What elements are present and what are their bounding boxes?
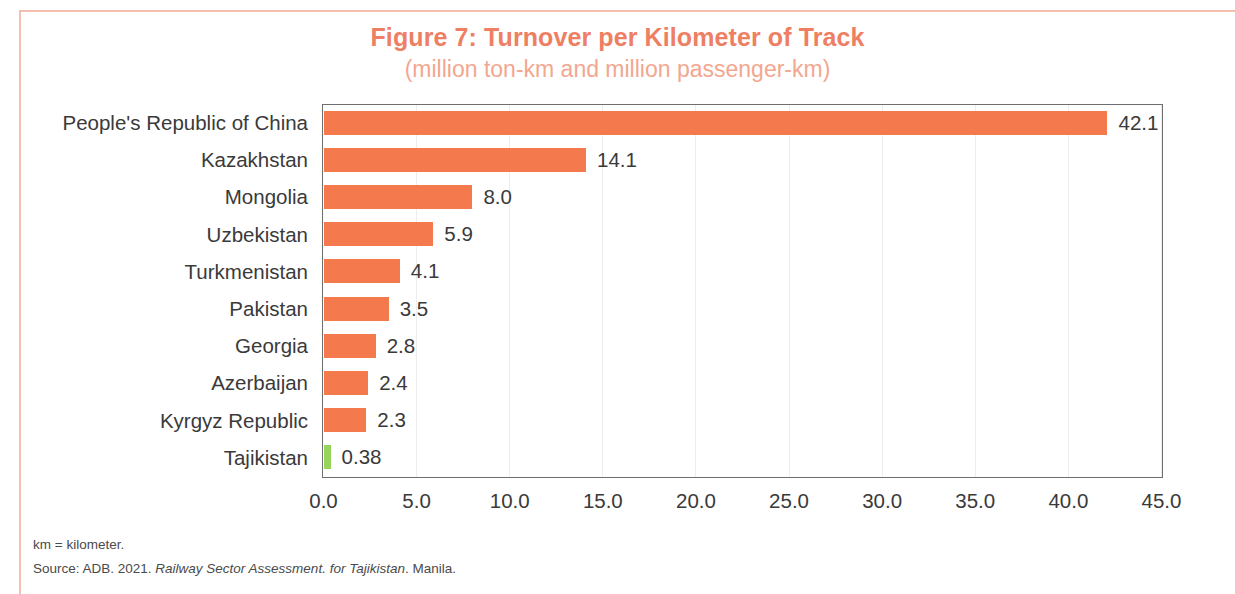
category-label: Georgia [0,327,308,364]
bar-row: Kazakhstan14.1 [0,141,1235,178]
category-label: Uzbekistan [0,216,308,253]
source-suffix: . Manila. [405,561,456,576]
bar-group: 8.0 [324,185,512,209]
bar-row: Georgia2.8 [0,327,1235,364]
bar-value-label: 42.1 [1118,111,1158,135]
bar-group: 42.1 [324,111,1159,135]
bar[interactable] [324,445,331,469]
bar-value-label: 0.38 [342,445,382,469]
category-label: Mongolia [0,178,308,215]
bar-group: 2.3 [324,408,406,432]
x-tick-label: 20.0 [676,489,716,513]
bar-group: 0.38 [324,445,382,469]
x-axis-tick-labels: 0.05.010.015.020.025.030.035.040.045.0 [0,489,1235,523]
x-tick-label: 25.0 [769,489,809,513]
chart-area: People's Republic of China42.1Kazakhstan… [0,100,1235,480]
category-label: Azerbaijan [0,364,308,401]
bar-value-label: 14.1 [597,148,637,172]
category-label: Tajikistan [0,439,308,476]
x-tick-label: 30.0 [862,489,902,513]
bar-rows: People's Republic of China42.1Kazakhstan… [0,100,1235,478]
bar[interactable] [324,185,473,209]
bar[interactable] [324,297,389,321]
bar[interactable] [324,111,1108,135]
bar-value-label: 5.9 [444,222,473,246]
x-tick-label: 10.0 [490,489,530,513]
bar-group: 2.8 [324,334,416,358]
bar-group: 14.1 [324,148,637,172]
source-note: Source: ADB. 2021. Railway Sector Assess… [33,557,1133,581]
category-label: Kazakhstan [0,141,308,178]
bar-group: 3.5 [324,297,429,321]
bar-row: Tajikistan0.38 [0,439,1235,476]
category-label: Kyrgyz Republic [0,402,308,439]
bar[interactable] [324,371,369,395]
bar[interactable] [324,334,376,358]
bar-row: Uzbekistan5.9 [0,216,1235,253]
bar[interactable] [324,148,587,172]
bar-value-label: 2.3 [377,408,406,432]
bar-value-label: 8.0 [483,185,512,209]
x-tick-label: 45.0 [1142,489,1182,513]
category-label: Turkmenistan [0,253,308,290]
bar-row: People's Republic of China42.1 [0,104,1235,141]
bar-row: Turkmenistan4.1 [0,253,1235,290]
bar-value-label: 4.1 [411,259,440,283]
bar-row: Kyrgyz Republic2.3 [0,402,1235,439]
source-title: Railway Sector Assessment. for Tajikista… [155,561,405,576]
bar-group: 4.1 [324,259,440,283]
bar-row: Mongolia8.0 [0,178,1235,215]
x-tick-label: 5.0 [402,489,431,513]
category-label: People's Republic of China [0,104,308,141]
x-tick-label: 15.0 [583,489,623,513]
bar-value-label: 3.5 [400,297,429,321]
bar[interactable] [324,259,400,283]
category-label: Pakistan [0,290,308,327]
footnotes: km = kilometer. Source: ADB. 2021. Railw… [33,533,1133,581]
bar-group: 5.9 [324,222,473,246]
source-prefix: Source: ADB. 2021. [33,561,155,576]
x-tick-label: 35.0 [955,489,995,513]
x-tick-label: 0.0 [309,489,338,513]
bar-group: 2.4 [324,371,408,395]
bar[interactable] [324,222,434,246]
abbreviation-note: km = kilometer. [33,533,1133,557]
bar-row: Pakistan3.5 [0,290,1235,327]
bar-value-label: 2.8 [387,334,416,358]
bar[interactable] [324,408,367,432]
x-tick-label: 40.0 [1048,489,1088,513]
bar-value-label: 2.4 [379,371,408,395]
bar-row: Azerbaijan2.4 [0,364,1235,401]
